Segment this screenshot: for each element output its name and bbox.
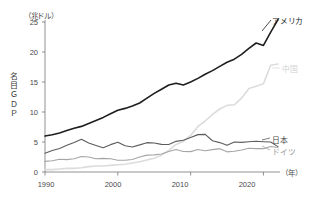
- series-line-japan: [45, 134, 278, 153]
- leader-line-japan: [262, 138, 270, 140]
- leader-line-america: [262, 20, 271, 31]
- plot-area: [0, 0, 316, 197]
- series-line-germany: [45, 146, 278, 161]
- series-line-america: [45, 20, 278, 136]
- tick-marks: [42, 22, 263, 176]
- series-lines: [45, 20, 278, 170]
- gdp-line-chart: （兆ドル） 名 目 Ｇ Ｄ Ｐ 25 20 15 10 5 0 1990 200…: [0, 0, 316, 197]
- leader-lines: [262, 20, 280, 150]
